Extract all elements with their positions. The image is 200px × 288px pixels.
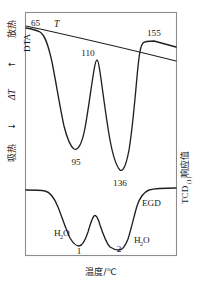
annotation-onset-65: 65 <box>31 18 41 28</box>
annotation-egd-valley-2: 2 <box>117 244 122 254</box>
dta-curve <box>26 28 176 170</box>
y-axis-left-arrow-down: ↓ <box>7 122 17 130</box>
annotation-step-155: 155 <box>147 28 161 38</box>
annotation-dta-label: DTA <box>22 33 32 52</box>
annotation-peak-110: 110 <box>81 48 95 58</box>
x-axis-label: 温度/℃ <box>85 266 116 277</box>
y-axis-left-arrow-up: ↑ <box>7 60 17 68</box>
y-axis-left-label: 放热 ↑ ΔT ↓ 吸热 <box>6 20 17 162</box>
y-axis-left-exothermic: 放热 <box>6 20 17 38</box>
annotation-egd-label: EGD <box>142 198 161 208</box>
annotation-water-right: H 2 O <box>134 235 150 247</box>
annotation-egd-valley-1: 1 <box>77 246 82 256</box>
y-axis-right-label: TCD (1) 响应值 <box>179 151 193 204</box>
y-axis-right-tcd: TCD <box>180 185 190 204</box>
annotation-water-left: H 2 O <box>54 228 70 240</box>
water-left-o: O <box>63 228 70 238</box>
thermal-analysis-figure: 65 T DTA 110 155 95 136 EGD H 2 O H 2 O … <box>0 0 200 288</box>
annotation-valley-95: 95 <box>71 157 81 167</box>
water-right-o: O <box>143 235 150 245</box>
annotation-valley-136: 136 <box>113 178 127 188</box>
annotation-temperature-T: T <box>54 19 60 29</box>
y-axis-right-response-cjk: 响应值 <box>179 151 190 178</box>
y-axis-left-delta-t: ΔT <box>7 88 17 101</box>
y-axis-left-endothermic: 吸热 <box>6 144 17 162</box>
